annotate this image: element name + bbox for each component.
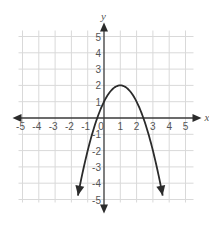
x-axis-right-arrow-icon [193,114,202,122]
curve-left-arrow-icon [75,185,84,196]
y-tick-label: 3 [95,64,101,75]
x-tick-label: 1 [118,121,124,132]
y-tick-label: -3 [92,162,101,173]
x-tick-label: -1 [81,121,90,132]
x-axis-label: x [204,111,210,123]
x-tick-label: 2 [134,121,140,132]
grid [19,31,194,203]
x-tick-label: -4 [32,121,41,132]
y-tick-label: 2 [95,80,101,91]
y-tick-label: 1 [95,97,101,108]
parabola-graph: -5-4-3-2-1012345-5-4-3-2-112345 x y [0,0,209,232]
x-tick-label: -2 [65,121,74,132]
axes [13,23,202,214]
curve-right-arrow-icon [156,185,165,196]
x-tick-label: 3 [150,121,156,132]
y-axis-up-arrow-icon [100,23,108,32]
y-tick-label: -5 [92,195,101,206]
y-tick-label: 4 [95,48,101,59]
x-tick-label: -5 [16,121,25,132]
x-tick-label: 5 [183,121,189,132]
x-tick-label: -3 [49,121,58,132]
x-tick-label: 4 [166,121,172,132]
y-tick-label: 5 [95,32,101,43]
y-tick-label: -4 [92,178,101,189]
y-tick-label: -2 [92,146,101,157]
y-axis-down-arrow-icon [100,205,108,214]
y-axis-label: y [100,10,106,22]
